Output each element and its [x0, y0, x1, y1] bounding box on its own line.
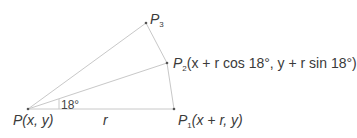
point-p: [27, 108, 30, 111]
point-p1: [173, 108, 176, 111]
radius-label: r: [103, 113, 108, 127]
angle-label: 18°: [61, 99, 79, 111]
label-p2: P2(x + r cos 18°, y + r sin 18°): [173, 56, 357, 73]
segment-p-p3: [28, 23, 146, 109]
segment-p-p2: [28, 63, 167, 109]
point-p3: [145, 22, 148, 25]
label-p: P(x, y): [13, 113, 53, 127]
label-p3: P3: [150, 12, 164, 29]
segment-p2-p3: [146, 23, 167, 63]
label-p1: P1(x + r, y): [178, 113, 243, 130]
point-p2: [166, 62, 169, 65]
